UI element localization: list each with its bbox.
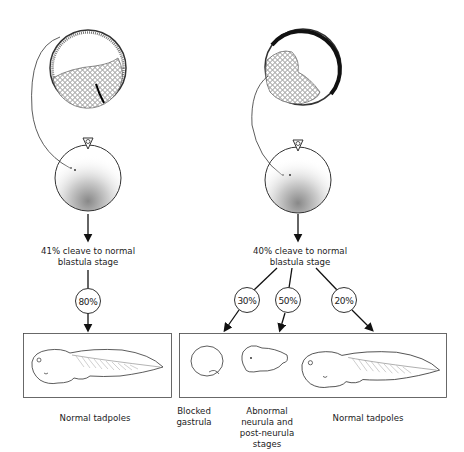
right-cleave-text-2: blastula stage	[270, 257, 331, 267]
left-percent-badge-80: 80%	[76, 289, 101, 314]
abnormal-label-2: neurula and	[241, 417, 293, 427]
left-donor-embryo	[50, 30, 126, 108]
right-percent-badge-50: 50%	[276, 288, 301, 313]
left-outcome-label: Normal tadpoles	[60, 413, 131, 423]
blocked-label-1: Blocked	[177, 406, 211, 416]
abnormal-label-3: post-neurula	[240, 428, 294, 438]
connector-30	[254, 268, 277, 290]
arrow-to-abnormal	[280, 313, 285, 330]
percent-label: 50%	[278, 296, 298, 306]
left-cleave-text-2: blastula stage	[58, 257, 119, 267]
right-donor-embryo	[265, 29, 341, 105]
percent-label: 20%	[334, 296, 354, 306]
arrow-to-normal	[352, 310, 372, 330]
abnormal-label-1: Abnormal	[246, 406, 287, 416]
percent-label: 30%	[237, 296, 257, 306]
left-branch: 41% cleave to normal blastula stage 80% …	[24, 30, 172, 423]
percent-label: 80%	[78, 297, 98, 307]
connector-50	[289, 268, 292, 288]
left-recipient-egg	[55, 138, 121, 211]
right-normal-label: Normal tadpoles	[333, 413, 404, 423]
blocked-label-2: gastrula	[176, 417, 211, 427]
right-branch: 40% cleave to normal blastula stage 30% …	[176, 29, 446, 449]
right-cleave-text-1: 40% cleave to normal	[253, 246, 347, 256]
blocked-gastrula-drawing	[191, 346, 223, 376]
right-percent-badge-30: 30%	[235, 288, 260, 313]
arrow-to-blocked	[225, 310, 239, 330]
abnormal-label-4: stages	[253, 439, 282, 449]
left-cleave-text-1: 41% cleave to normal	[41, 246, 135, 256]
connector-20	[316, 268, 337, 290]
right-percent-badge-20: 20%	[332, 288, 357, 313]
right-recipient-egg	[265, 140, 331, 213]
nuclear-transplant-diagram: 41% cleave to normal blastula stage 80% …	[0, 0, 464, 452]
